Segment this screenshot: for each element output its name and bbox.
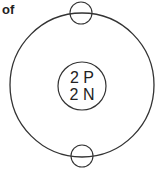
nucleus-protons-label: 2 P	[70, 69, 94, 86]
atom-diagram: 2 P 2 N	[0, 0, 158, 173]
nucleus-neutrons-label: 2 N	[70, 86, 95, 103]
